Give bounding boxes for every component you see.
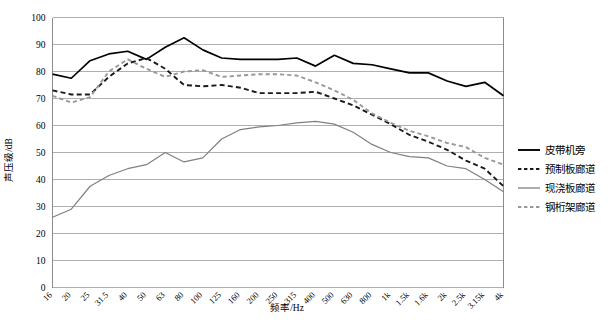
series-line-3 <box>53 121 504 217</box>
series-line-2 <box>53 58 504 186</box>
x-tick-label: 100 <box>188 290 204 306</box>
x-tick-label: 1k <box>379 289 393 303</box>
legend-label-3[interactable]: 现浇板廊道 <box>545 182 596 194</box>
line-chart: 0102030405060708090100 16202531.54050638… <box>0 0 608 325</box>
y-tick-label: 20 <box>36 229 46 239</box>
grid-lines <box>53 18 504 288</box>
y-tick-label: 10 <box>36 256 46 266</box>
x-tick-label: 4k <box>492 289 506 303</box>
x-tick-label: 2.5k <box>450 289 468 307</box>
x-tick-label: 40 <box>116 290 129 303</box>
series-line-4 <box>53 59 504 164</box>
chart-container: 0102030405060708090100 16202531.54050638… <box>0 0 608 325</box>
y-tick-label: 70 <box>36 94 46 104</box>
x-tick-label: 160 <box>226 290 242 306</box>
x-tick-label: 1.5k <box>393 289 411 307</box>
series-line-1 <box>53 38 504 96</box>
legend-label-2[interactable]: 预制板廊道 <box>545 163 596 175</box>
data-series-group <box>53 38 504 218</box>
x-tick-label: 50 <box>135 290 148 303</box>
y-tick-label: 50 <box>36 148 46 158</box>
y-tick-label: 30 <box>36 202 46 212</box>
x-tick-label: 630 <box>338 290 354 306</box>
x-tick-label: 1.6k <box>412 289 430 307</box>
chart-legend: 皮带机旁预制板廊道现浇板廊道钢桁架廊道 <box>518 144 596 213</box>
x-tick-label: 80 <box>172 290 185 303</box>
x-axis-title: 频率/Hz <box>270 302 304 313</box>
y-axis-ticks: 0102030405060708090100 <box>31 13 46 293</box>
y-axis-title: 声压级/dB <box>3 138 14 182</box>
legend-label-1[interactable]: 皮带机旁 <box>545 144 585 156</box>
axis-titles: 频率/Hz声压级/dB <box>3 138 304 313</box>
y-tick-label: 60 <box>36 121 46 131</box>
x-tick-label: 800 <box>357 290 373 306</box>
x-tick-label: 2k <box>435 289 449 303</box>
x-tick-label: 125 <box>207 290 223 306</box>
x-tick-label: 20 <box>60 290 73 303</box>
y-tick-label: 40 <box>36 175 46 185</box>
x-tick-label: 3.15k <box>465 289 486 310</box>
x-tick-label: 25 <box>78 290 91 303</box>
y-tick-label: 80 <box>36 67 46 77</box>
y-tick-label: 90 <box>36 40 46 50</box>
x-tick-label: 200 <box>244 290 260 306</box>
x-tick-label: 31.5 <box>93 290 111 308</box>
y-tick-label: 100 <box>31 13 46 23</box>
x-tick-label: 500 <box>320 290 336 306</box>
legend-label-4[interactable]: 钢桁架廊道 <box>545 201 596 213</box>
x-tick-label: 63 <box>154 290 167 303</box>
